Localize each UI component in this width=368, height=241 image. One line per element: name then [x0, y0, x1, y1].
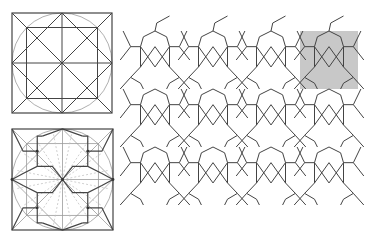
motif-derivation-panel — [11, 129, 115, 230]
construction-grid-panel — [12, 13, 112, 113]
figure-canvas — [0, 0, 368, 241]
